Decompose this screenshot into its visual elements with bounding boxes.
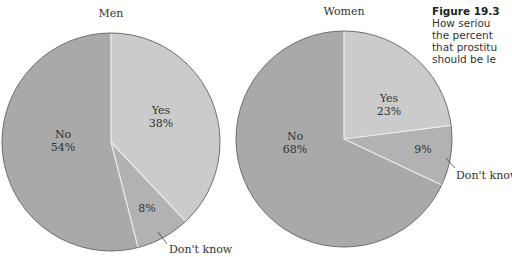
men-title: Men [99,7,124,20]
caption-line: the percent [432,29,512,41]
caption-line: How seriou [432,17,512,29]
pie-women [236,31,452,247]
pie-men [2,33,220,251]
women-yes-label: Yes [379,92,399,105]
women-no-pct: 68% [283,143,307,156]
caption-line: should be le [432,53,512,65]
men-yes-label: Yes [151,104,171,117]
men-dk-pct: 8% [138,202,155,215]
caption-line: that prostitu [432,41,512,53]
women-no-label: No [287,130,304,143]
women-yes-pct: 23% [377,105,401,118]
women-dk-pct: 9% [414,143,431,156]
women-dk-callout: Don't know [456,169,512,182]
men-no-label: No [55,128,72,141]
figure-caption: Figure 19.3 How seriou the percent that … [432,5,512,65]
men-no-pct: 54% [51,141,75,154]
caption-title: Figure 19.3 [432,5,512,17]
men-dk-callout: Don't know [169,243,233,256]
men-yes-pct: 38% [149,117,173,130]
women-title: Women [323,5,364,18]
